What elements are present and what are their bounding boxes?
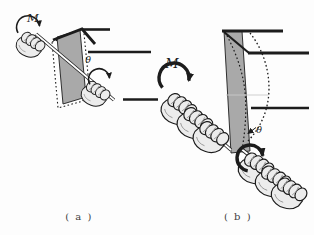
- caption-b: ( b ): [224, 211, 252, 222]
- torsion-diagram: M θ ( a ): [0, 0, 314, 235]
- twist-angle-label-a: θ: [85, 54, 91, 65]
- hand-top-a: [12, 28, 47, 62]
- figure-canvas: M θ ( a ): [0, 0, 314, 235]
- moment-label-a: M: [26, 11, 40, 25]
- moment-label-b: M: [164, 56, 179, 71]
- subfigure-b: M θ ( b ): [156, 31, 309, 222]
- subfigure-a: M θ ( a ): [12, 11, 158, 222]
- twist-angle-pointer-b: [248, 128, 256, 134]
- caption-a: ( a ): [65, 211, 93, 222]
- twist-angle-label-b: θ: [256, 124, 262, 135]
